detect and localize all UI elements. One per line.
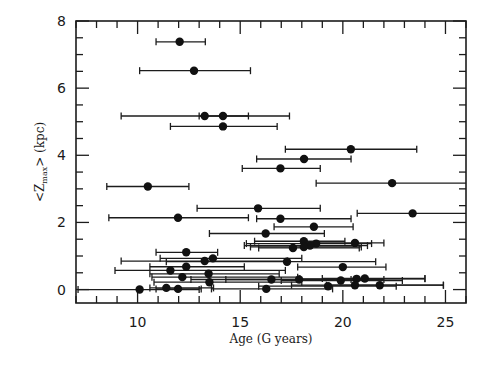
data-point — [205, 278, 213, 286]
data-point — [310, 223, 318, 231]
data-point — [261, 229, 269, 237]
data-point — [388, 179, 396, 187]
data-point — [144, 182, 152, 190]
data-points — [135, 38, 416, 294]
data-point — [190, 66, 198, 74]
data-point — [300, 243, 308, 251]
data-point — [201, 112, 209, 120]
data-point — [209, 254, 217, 262]
data-point — [174, 214, 182, 222]
scatter-chart: 1015202502468 Age (G years) <Zmax> (kpc) — [0, 0, 484, 366]
data-point — [219, 122, 227, 130]
error-bars — [78, 38, 466, 293]
data-point — [276, 164, 284, 172]
data-point — [289, 244, 297, 252]
data-point — [182, 263, 190, 271]
data-point — [324, 282, 332, 290]
data-point — [204, 270, 212, 278]
x-tick-label: 25 — [437, 314, 455, 330]
data-point — [175, 38, 183, 46]
data-point — [351, 281, 359, 289]
data-point — [135, 285, 143, 293]
data-point — [351, 239, 359, 247]
y-label-post: > (kpc) — [33, 122, 47, 167]
data-point — [376, 281, 384, 289]
data-point — [361, 274, 369, 282]
y-tick-label: 4 — [57, 147, 66, 163]
y-label-pre: <Z — [33, 184, 47, 202]
data-point — [300, 155, 308, 163]
data-point — [162, 284, 170, 292]
data-point — [339, 263, 347, 271]
y-label-sub: max — [40, 166, 49, 183]
data-point — [182, 248, 190, 256]
y-tick-label: 0 — [57, 282, 66, 298]
data-point — [166, 266, 174, 274]
x-tick-label: 10 — [129, 314, 147, 330]
data-point — [254, 204, 262, 212]
data-point — [267, 275, 275, 283]
data-point — [408, 209, 416, 217]
data-point — [347, 145, 355, 153]
data-point — [178, 273, 186, 281]
data-point — [295, 275, 303, 283]
x-axis-label: Age (G years) — [229, 332, 313, 346]
x-tick-label: 20 — [334, 314, 352, 330]
y-tick-label: 8 — [57, 13, 66, 29]
data-point — [174, 285, 182, 293]
data-point — [283, 258, 291, 266]
data-point — [337, 276, 345, 284]
data-point — [262, 285, 270, 293]
data-point — [219, 112, 227, 120]
x-tick-label: 15 — [231, 314, 249, 330]
y-tick-label: 2 — [57, 214, 66, 230]
data-point — [276, 215, 284, 223]
data-point — [201, 257, 209, 265]
y-tick-label: 6 — [57, 80, 66, 96]
y-axis-label: <Zmax> (kpc) — [33, 122, 49, 202]
